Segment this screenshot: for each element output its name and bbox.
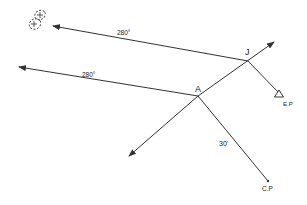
cp-dot	[267, 180, 269, 182]
triangle-icon	[275, 90, 284, 97]
cp-line	[198, 96, 268, 181]
navigation-diagram: 280° 280° J A E.P 30' C.P	[0, 0, 307, 205]
bearing-line-upper	[53, 26, 248, 61]
label-ep: E.P	[283, 101, 293, 107]
label-cp: C.P	[262, 185, 273, 192]
label-point-j: J	[245, 47, 250, 57]
label-cp-bearing: 30'	[219, 140, 228, 147]
label-lower-bearing: 280°	[82, 71, 96, 78]
main-track-line	[198, 42, 274, 96]
main-track-line-lower	[129, 96, 198, 156]
dashed-ellipse-cross-icon	[27, 8, 47, 31]
label-point-a: A	[195, 84, 201, 94]
ep-line	[248, 61, 278, 92]
bearing-line-lower	[19, 67, 198, 96]
label-upper-bearing: 280°	[117, 29, 131, 36]
